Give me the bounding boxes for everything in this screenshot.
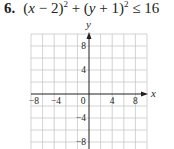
x-tick: 0 [81, 96, 86, 106]
x-tick: −4 [51, 96, 61, 106]
x-tick: 4 [110, 96, 115, 106]
y-tick: 8 [81, 41, 86, 51]
y-tick: −8 [76, 137, 86, 147]
coordinate-grid: x y −8 −4 0 4 8 8 4 −4 −8 [0, 0, 174, 149]
y-axis-arrow-icon [87, 32, 92, 39]
x-tick-labels: −8 −4 0 4 8 [29, 96, 138, 106]
axes [31, 35, 146, 149]
y-tick: −4 [76, 113, 86, 123]
y-tick: 4 [81, 65, 86, 75]
y-axis-label: y [85, 18, 91, 30]
x-axis-label: x [150, 87, 156, 99]
x-tick: −8 [29, 96, 39, 106]
x-tick: 8 [133, 96, 138, 106]
